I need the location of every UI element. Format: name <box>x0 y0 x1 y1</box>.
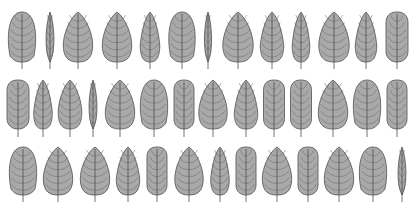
leaf-row <box>8 12 408 69</box>
leaf-row <box>9 147 406 202</box>
leaf-narrow <box>260 12 284 69</box>
leaf-egg <box>319 12 349 69</box>
leaf-egg <box>58 80 82 137</box>
leaf-egg <box>223 12 253 69</box>
leaf-egg <box>43 147 72 202</box>
leaf-narrow <box>34 80 53 137</box>
leaf-capsule <box>147 147 167 202</box>
leaf-capsule <box>387 80 407 137</box>
leaf-oval <box>8 12 35 69</box>
leaf-thin <box>89 80 97 137</box>
leaf-oval <box>140 80 167 137</box>
leaf-egg <box>324 147 353 202</box>
leaf-oval <box>9 147 36 202</box>
leaf-thin <box>204 12 211 69</box>
leaf-capsule <box>264 80 285 137</box>
leaf-thin <box>46 12 54 69</box>
leaf-egg <box>105 80 134 137</box>
leaf-egg <box>63 12 92 69</box>
leaf-narrow <box>292 12 310 69</box>
leaf-row <box>7 80 407 137</box>
leaf-narrow <box>116 147 140 202</box>
leaf-grid <box>0 0 417 205</box>
leaf-egg <box>102 12 131 69</box>
leaf-capsule <box>174 80 194 137</box>
leaf-capsule <box>7 80 29 137</box>
leaf-thin <box>398 147 406 202</box>
leaf-narrow <box>355 12 377 69</box>
leaf-egg <box>199 80 227 137</box>
leaf-egg <box>262 147 291 202</box>
leaf-narrow <box>234 80 258 137</box>
leaf-narrow <box>140 12 160 69</box>
leaf-oval <box>169 12 195 69</box>
leaf-narrow <box>211 147 230 202</box>
leaf-oval <box>353 80 380 137</box>
leaf-oval <box>359 147 386 202</box>
leaf-capsule <box>298 147 318 202</box>
leaf-capsule <box>236 147 256 202</box>
leaf-egg <box>80 147 109 202</box>
leaf-capsule <box>291 80 312 137</box>
leaf-egg <box>175 147 203 202</box>
leaf-egg <box>318 80 347 137</box>
leaf-capsule <box>386 12 408 69</box>
